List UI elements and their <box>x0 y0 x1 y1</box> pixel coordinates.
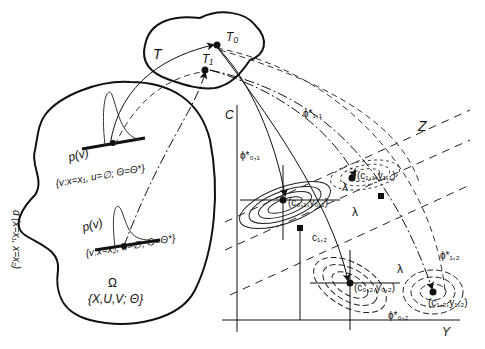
set-Omega-label: Ω <box>108 276 117 290</box>
lambda-label-3: λ <box>397 262 403 276</box>
distance-label: d (x=x₁, x=x₂) <box>11 210 22 269</box>
phi-12-label: ϕ*₁,₂ <box>440 250 460 261</box>
set-Omega-contents: {X,U,V; Θ} <box>88 292 143 306</box>
point-T0-label: T₀ <box>226 30 238 44</box>
point-02-label: (c₀,₂,y₀,₂) <box>354 282 395 293</box>
set-T-label: T <box>153 46 162 62</box>
axis-Y-label: Y <box>442 325 450 339</box>
point-11-label: (c₁,₁,y₁,₁) <box>357 170 396 181</box>
point-12-label: (c₁,₂,y₁,₂) <box>428 297 468 308</box>
lambda-label-2: λ <box>352 205 358 219</box>
c12-label: c₁,₂ <box>312 232 327 243</box>
phi-11-label: ϕ*₁,₁ <box>303 108 322 119</box>
phi-02-label: ϕ*₀,₂ <box>388 310 408 321</box>
point-T1-label: T₁ <box>202 52 213 66</box>
lambda-label-1: λ <box>342 180 348 194</box>
phi-01-label: ϕ*₀,₁ <box>240 150 260 161</box>
axis-C-label: C <box>225 108 234 122</box>
axis-Z-label: Z <box>418 118 427 134</box>
point-01-label: (c₀,₁,y₀,₁) <box>288 197 328 208</box>
